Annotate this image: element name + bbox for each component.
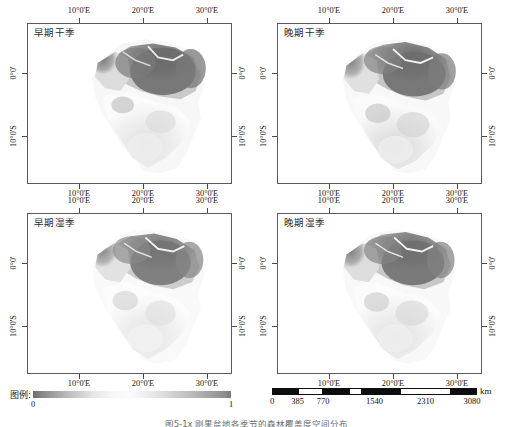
raster-map-early-wet (85, 225, 211, 365)
tick-top (393, 18, 394, 23)
axis-label-bottom: 30°0'E (446, 379, 468, 388)
tick-left (272, 136, 277, 137)
panel-frame: 早期湿季 (27, 213, 232, 374)
tick-top (143, 208, 144, 213)
raster-map-late-dry (335, 35, 461, 175)
tick-top (393, 208, 394, 213)
legend-min-value: 0 (31, 399, 35, 409)
panel-title-late-dry: 晚期干季 (284, 27, 326, 39)
axis-label-right: 10°0'S (238, 125, 247, 147)
scalebar-tick: 2310 (417, 396, 434, 406)
tick-left (272, 326, 277, 327)
axis-label-left: 10°0'S (9, 315, 18, 337)
scalebar-tick: 1540 (366, 396, 383, 406)
axis-label-left: 0°0' (259, 256, 268, 269)
axis-label-top: 30°0'E (196, 196, 218, 205)
axis-label-top: 30°0'E (446, 6, 468, 15)
panel-early-dry[interactable]: 早期干季 10°0'E 20°0'E 30°0'E 10°0'E 20°0'E … (27, 23, 232, 184)
tick-right (232, 326, 237, 327)
scalebar-segment (400, 388, 451, 395)
panel-frame: 晚期干季 (277, 23, 482, 184)
tick-top (329, 208, 330, 213)
scalebar-segment (298, 388, 324, 395)
axis-label-right: 10°0'S (488, 315, 497, 337)
tick-top (329, 18, 330, 23)
panel-late-dry[interactable]: 晚期干季 10°0'E 20°0'E 30°0'E 10°0'E 20°0'E … (277, 23, 482, 184)
scalebar-tick: 3080 (464, 396, 481, 406)
axis-label-left: 0°0' (9, 256, 18, 269)
panel-late-wet[interactable]: 晚期湿季 10°0'E 20°0'E 30°0'E 10°0'E 20°0'E … (277, 213, 482, 374)
panel-frame: 晚期湿季 (277, 213, 482, 374)
axis-label-right: 10°0'S (238, 315, 247, 337)
tick-top (457, 208, 458, 213)
axis-label-top: 10°0'E (318, 6, 340, 15)
axis-label-bottom: 10°0'E (68, 379, 90, 388)
tick-right (482, 136, 487, 137)
panel-title-early-wet: 早期湿季 (34, 217, 76, 229)
tick-left (22, 73, 27, 74)
axis-label-top: 30°0'E (196, 6, 218, 15)
scalebar-segment (362, 388, 400, 395)
scalebar: km 0 385 770 1540 2310 3080 (272, 388, 477, 406)
axis-label-top: 20°0'E (132, 196, 154, 205)
axis-label-left: 0°0' (259, 66, 268, 79)
panel-title-early-dry: 早期干季 (34, 27, 76, 39)
axis-label-top: 10°0'E (318, 196, 340, 205)
axis-label-left: 10°0'S (259, 125, 268, 147)
legend-max-value: 1 (229, 399, 233, 409)
tick-left (272, 263, 277, 264)
tick-right (482, 73, 487, 74)
scalebar-segment (272, 388, 298, 395)
tick-left (272, 73, 277, 74)
axis-label-top: 30°0'E (446, 196, 468, 205)
axis-label-left: 0°0' (9, 66, 18, 79)
axis-label-right: 10°0'S (488, 125, 497, 147)
scalebar-segment (451, 388, 477, 395)
tick-left (22, 136, 27, 137)
legend-color-ramp: 0 1 (33, 391, 231, 398)
axis-label-bottom: 10°0'E (318, 379, 340, 388)
axis-label-top: 20°0'E (382, 6, 404, 15)
axis-label-top: 10°0'E (68, 196, 90, 205)
legend-label: 图例: (10, 388, 31, 401)
axis-label-top: 10°0'E (68, 6, 90, 15)
raster-map-late-wet (335, 225, 461, 365)
scalebar-tick: 385 (291, 396, 304, 406)
tick-left (22, 263, 27, 264)
axis-label-left: 10°0'S (9, 125, 18, 147)
axis-label-right: 0°0' (488, 66, 497, 79)
scalebar-tick: 770 (317, 396, 330, 406)
scalebar-segments: km (272, 388, 477, 395)
axis-label-bottom: 20°0'E (132, 379, 154, 388)
figure-caption: 图5-1x 刚果盆地各季节的森林覆盖度空间分布 (0, 417, 513, 427)
panel-frame: 早期干季 (27, 23, 232, 184)
scalebar-tick: 0 (270, 396, 274, 406)
axis-label-top: 20°0'E (132, 6, 154, 15)
tick-right (482, 263, 487, 264)
tick-right (232, 73, 237, 74)
figure-root: 早期干季 10°0'E 20°0'E 30°0'E 10°0'E 20°0'E … (0, 0, 513, 427)
scalebar-segment (323, 388, 349, 395)
legend: 图例: 0 1 (10, 388, 231, 401)
tick-top (79, 208, 80, 213)
tick-top (143, 18, 144, 23)
axis-label-right: 0°0' (238, 66, 247, 79)
panel-early-wet[interactable]: 早期湿季 10°0'E 20°0'E 30°0'E 10°0'E 20°0'E … (27, 213, 232, 374)
tick-top (457, 18, 458, 23)
panel-title-late-wet: 晚期湿季 (284, 217, 326, 229)
scalebar-unit: km (480, 386, 492, 396)
tick-left (22, 326, 27, 327)
scalebar-tick-labels: 0 385 770 1540 2310 3080 (272, 395, 477, 406)
tick-right (232, 263, 237, 264)
axis-label-bottom: 30°0'E (196, 379, 218, 388)
scalebar-segment (349, 388, 362, 395)
tick-top (207, 18, 208, 23)
tick-right (482, 326, 487, 327)
axis-label-right: 0°0' (488, 256, 497, 269)
axis-label-right: 0°0' (238, 256, 247, 269)
raster-map-early-dry (85, 35, 211, 175)
tick-right (232, 136, 237, 137)
axis-label-left: 10°0'S (259, 315, 268, 337)
axis-label-top: 20°0'E (382, 196, 404, 205)
tick-top (79, 18, 80, 23)
